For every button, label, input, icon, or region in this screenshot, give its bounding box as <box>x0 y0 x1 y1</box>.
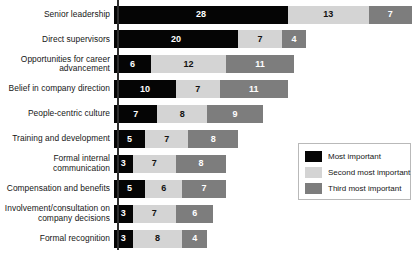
category-label: Involvement/consultation on company deci… <box>0 204 114 223</box>
legend-item[interactable]: Second most important <box>305 165 405 180</box>
bar-value-label: 7 <box>133 109 138 119</box>
chart-row: Involvement/consultation on company deci… <box>0 201 417 226</box>
bar-value-label: 20 <box>171 34 181 44</box>
bar-value-label: 7 <box>195 84 200 94</box>
chart-legend: Most important Second most important Thi… <box>298 143 411 200</box>
bar-value-label: 3 <box>121 233 126 243</box>
legend-label: Second most important <box>328 168 410 178</box>
bar-segment[interactable]: 10 <box>114 80 176 98</box>
bar-segment[interactable]: 28 <box>114 6 288 24</box>
bar-value-label: 6 <box>161 183 166 193</box>
stacked-bar[interactable]: 578 <box>114 130 238 148</box>
bar-segment[interactable]: 7 <box>114 105 157 123</box>
legend-swatch-third-most-important <box>305 183 322 194</box>
bar-value-label: 7 <box>152 208 157 218</box>
bar-segment[interactable]: 7 <box>133 205 176 223</box>
bar-segment[interactable]: 13 <box>288 6 369 24</box>
bar-track: 28137 <box>114 2 417 27</box>
bar-value-label: 7 <box>388 9 393 19</box>
stacked-bar[interactable]: 384 <box>114 230 207 248</box>
stacked-bar[interactable]: 789 <box>114 105 263 123</box>
bar-track: 10711 <box>114 77 417 102</box>
bar-value-label: 8 <box>211 134 216 144</box>
bar-value-label: 7 <box>202 183 207 193</box>
bar-segment[interactable]: 9 <box>207 105 263 123</box>
bar-segment[interactable]: 4 <box>282 30 307 48</box>
category-label: Training and development <box>0 134 114 144</box>
bar-track: 61211 <box>114 52 417 77</box>
chart-row: Formal recognition384 <box>0 226 417 251</box>
category-label: Opportunities for career advancement <box>0 55 114 74</box>
bar-segment[interactable]: 6 <box>176 205 213 223</box>
category-label: Direct supervisors <box>0 35 114 45</box>
bar-value-label: 5 <box>127 183 132 193</box>
legend-item[interactable]: Most important <box>305 149 405 164</box>
bar-value-label: 5 <box>127 134 132 144</box>
stacked-bar[interactable]: 378 <box>114 155 226 173</box>
category-label: People-centric culture <box>0 109 114 119</box>
bar-value-label: 8 <box>198 158 203 168</box>
category-label: Senior leadership <box>0 10 114 20</box>
bar-segment[interactable]: 7 <box>238 30 281 48</box>
bar-segment[interactable]: 8 <box>133 230 183 248</box>
bar-segment[interactable]: 6 <box>145 180 182 198</box>
stacked-bar[interactable]: 10711 <box>114 80 288 98</box>
bar-value-label: 6 <box>130 59 135 69</box>
bar-segment[interactable]: 20 <box>114 30 238 48</box>
chart-row: Senior leadership28137 <box>0 2 417 27</box>
bar-segment[interactable]: 6 <box>114 55 151 73</box>
value-axis-line <box>117 0 119 250</box>
bar-value-label: 4 <box>292 34 297 44</box>
bar-segment[interactable]: 11 <box>220 80 288 98</box>
stacked-bar[interactable]: 61211 <box>114 55 294 73</box>
category-label: Compensation and benefits <box>0 184 114 194</box>
bar-segment[interactable]: 8 <box>157 105 207 123</box>
bar-value-label: 12 <box>183 59 193 69</box>
chart-row: Direct supervisors2074 <box>0 27 417 52</box>
stacked-bar[interactable]: 567 <box>114 180 226 198</box>
legend-label: Third most important <box>328 184 401 194</box>
bar-value-label: 7 <box>152 158 157 168</box>
category-label: Formal internal communication <box>0 154 114 173</box>
bar-value-label: 3 <box>121 208 126 218</box>
bar-track: 789 <box>114 102 417 127</box>
bar-track: 2074 <box>114 27 417 52</box>
stacked-bar[interactable]: 2074 <box>114 30 306 48</box>
bar-segment[interactable]: 7 <box>369 6 412 24</box>
bar-track: 384 <box>114 226 417 251</box>
bar-value-label: 13 <box>323 9 333 19</box>
bar-segment[interactable]: 11 <box>226 55 294 73</box>
bar-segment[interactable]: 7 <box>133 155 176 173</box>
bar-value-label: 8 <box>155 233 160 243</box>
legend-label: Most important <box>328 152 381 162</box>
bar-value-label: 8 <box>180 109 185 119</box>
bar-value-label: 7 <box>164 134 169 144</box>
bar-value-label: 11 <box>255 59 265 69</box>
chart-row: Belief in company direction10711 <box>0 77 417 102</box>
bar-segment[interactable]: 12 <box>151 55 226 73</box>
bar-value-label: 28 <box>196 9 206 19</box>
legend-item[interactable]: Third most important <box>305 181 405 196</box>
bar-segment[interactable]: 7 <box>145 130 188 148</box>
bar-value-label: 11 <box>249 84 259 94</box>
bar-value-label: 9 <box>233 109 238 119</box>
bar-segment[interactable]: 8 <box>176 155 226 173</box>
bar-value-label: 10 <box>140 84 150 94</box>
stacked-bar[interactable]: 28137 <box>114 6 412 24</box>
stacked-bar[interactable]: 376 <box>114 205 213 223</box>
chart-row: People-centric culture789 <box>0 102 417 127</box>
bar-value-label: 6 <box>192 208 197 218</box>
chart-row: Opportunities for career advancement6121… <box>0 52 417 77</box>
stacked-bar-chart: Senior leadership28137Direct supervisors… <box>0 0 417 254</box>
bar-segment[interactable]: 8 <box>188 130 238 148</box>
bar-value-label: 4 <box>192 233 197 243</box>
bar-segment[interactable]: 7 <box>176 80 219 98</box>
bar-track: 376 <box>114 201 417 226</box>
category-label: Formal recognition <box>0 234 114 244</box>
bar-value-label: 3 <box>121 158 126 168</box>
bar-value-label: 7 <box>257 34 262 44</box>
category-label: Belief in company direction <box>0 84 114 94</box>
bar-segment[interactable]: 7 <box>182 180 225 198</box>
legend-swatch-second-most-important <box>305 167 322 178</box>
bar-segment[interactable]: 4 <box>182 230 207 248</box>
